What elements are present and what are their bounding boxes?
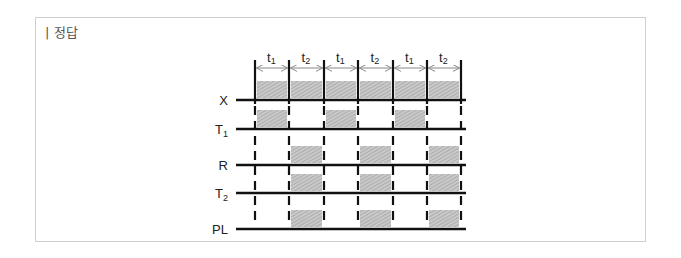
signal-high-pulse bbox=[360, 174, 391, 191]
interval-label: t2 bbox=[302, 50, 311, 66]
signal-high-pulse bbox=[291, 174, 322, 191]
signal-high-pulse bbox=[326, 110, 356, 127]
signal-high-pulse bbox=[395, 110, 425, 127]
interval-label: t2 bbox=[371, 50, 380, 66]
signal-high-pulse bbox=[429, 174, 459, 191]
signal-high-pulse bbox=[257, 110, 287, 127]
signal-high-pulse bbox=[429, 81, 459, 98]
signal-high-pulse bbox=[291, 81, 322, 98]
signal-label: X bbox=[219, 93, 228, 108]
signal-high-pulse bbox=[429, 210, 459, 227]
interval-label: t1 bbox=[267, 50, 276, 66]
signal-high-pulse bbox=[360, 146, 391, 163]
signal-label: PL bbox=[212, 222, 228, 237]
interval-label: t1 bbox=[336, 50, 345, 66]
signal-high-pulse bbox=[360, 210, 391, 227]
signal-label: T2 bbox=[215, 186, 228, 203]
interval-label: t2 bbox=[439, 50, 448, 66]
timing-diagram: t1t2t1t2t1t2XT1RT2PL bbox=[0, 0, 681, 258]
signal-high-pulse bbox=[429, 146, 459, 163]
signal-high-pulse bbox=[291, 146, 322, 163]
signal-high-pulse bbox=[395, 81, 425, 98]
interval-label: t1 bbox=[405, 50, 414, 66]
signal-label: R bbox=[219, 158, 228, 173]
signal-high-pulse bbox=[360, 81, 391, 98]
signal-high-pulse bbox=[326, 81, 356, 98]
signal-high-pulse bbox=[291, 210, 322, 227]
signal-high-pulse bbox=[257, 81, 287, 98]
signal-label: T1 bbox=[215, 122, 228, 139]
